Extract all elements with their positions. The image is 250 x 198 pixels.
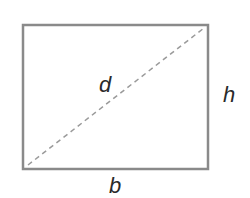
label-diagonal: d: [99, 74, 111, 96]
label-base: b: [109, 175, 121, 197]
label-height: h: [223, 84, 235, 106]
rectangle-diagram: [0, 0, 250, 198]
